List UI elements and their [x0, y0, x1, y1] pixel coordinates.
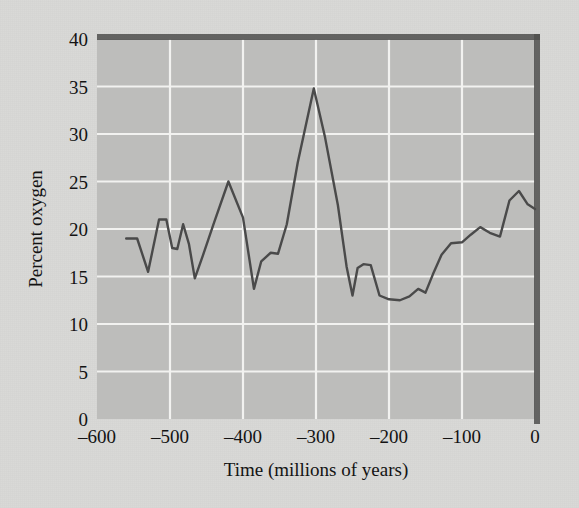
x-tick-label: –400	[223, 426, 262, 447]
y-tick-label: 20	[69, 219, 88, 240]
x-tick-label: –300	[296, 426, 335, 447]
x-tick-label: –500	[150, 426, 189, 447]
figure-container: –600–500–400–300–200–1000 05101520253035…	[0, 0, 579, 508]
y-tick-label: 0	[79, 409, 89, 430]
y-tick-label: 15	[69, 267, 88, 288]
y-tick-label: 10	[69, 314, 88, 335]
x-axis-tick-labels: –600–500–400–300–200–1000	[77, 426, 540, 447]
x-axis-title: Time (millions of years)	[224, 459, 409, 481]
y-axis-title: Percent oxygen	[25, 170, 46, 288]
y-tick-label: 40	[69, 29, 88, 50]
y-tick-label: 35	[69, 77, 88, 98]
y-tick-label: 5	[79, 362, 89, 383]
oxygen-time-line-chart: –600–500–400–300–200–1000 05101520253035…	[0, 0, 579, 508]
x-tick-label: –100	[442, 426, 481, 447]
y-tick-label: 30	[69, 124, 88, 145]
plot-border-right	[534, 34, 540, 424]
x-tick-label: 0	[530, 426, 540, 447]
y-tick-label: 25	[69, 172, 88, 193]
y-axis-tick-labels: 0510152025303540	[69, 29, 88, 430]
plot-border-top	[97, 34, 540, 40]
x-tick-label: –200	[369, 426, 408, 447]
